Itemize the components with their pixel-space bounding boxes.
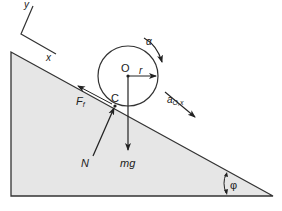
rolling-disk-diagram [0, 0, 282, 211]
friction-label: Ff [76, 96, 85, 108]
contact-label: C [111, 93, 119, 104]
center-label: O [121, 63, 130, 74]
friction-symbol: F [76, 95, 83, 107]
friction-subscript: f [83, 101, 85, 108]
normal-force-label: N [81, 158, 89, 169]
coordinate-axes [21, 6, 56, 54]
radius-label: r [139, 66, 142, 76]
incline-angle-label: φ [230, 180, 237, 191]
y-axis-label: y [24, 0, 29, 10]
acceleration-subscript: O,x [173, 99, 184, 106]
x-axis-label: x [46, 53, 51, 63]
angular-acceleration-label: α [146, 37, 152, 47]
acceleration-label: aO,x [167, 95, 183, 106]
weight-label: mg [120, 158, 135, 169]
contact-point [113, 104, 116, 107]
